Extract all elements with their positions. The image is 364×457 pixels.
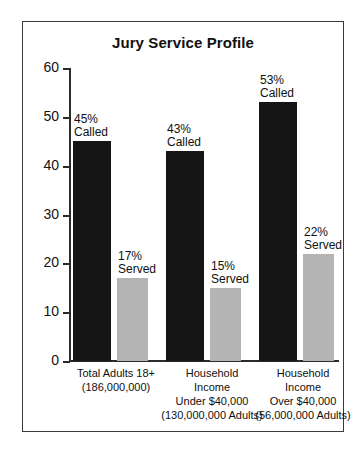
bar-served-group2[interactable]: 15% Served xyxy=(210,288,241,361)
y-tick-label-40: 40 xyxy=(43,157,59,173)
y-tick-label-60: 60 xyxy=(43,59,59,75)
category-line2-group3: Income xyxy=(249,380,357,394)
bar-called-group3[interactable]: 53% Called xyxy=(259,102,297,361)
y-tick-label-0: 0 xyxy=(51,352,59,368)
plot-area: 45% Called 17% Served 43% Called 15% Ser… xyxy=(69,68,337,361)
category-label-group1: Total Adults 18+ (186,000,000) xyxy=(71,366,161,394)
category-label-group3: Household Income Over $40,000 (56,000,00… xyxy=(249,366,357,422)
bar-series-served-group3: Served xyxy=(304,238,342,252)
y-tick-label-10: 10 xyxy=(43,303,59,319)
bar-value-served-group3: 22% xyxy=(304,225,328,239)
bar-label-served-group2: 15% Served xyxy=(211,260,249,286)
category-line2-group1: (186,000,000) xyxy=(71,380,161,394)
y-tick-label-20: 20 xyxy=(43,254,59,270)
y-tick-label-50: 50 xyxy=(43,108,59,124)
bar-label-served-group3: 22% Served xyxy=(304,226,342,252)
chart-title: Jury Service Profile xyxy=(23,34,343,51)
category-line1-group1: Total Adults 18+ xyxy=(71,366,161,380)
bar-value-called-group1: 45% xyxy=(74,112,98,126)
bar-value-called-group3: 53% xyxy=(260,73,284,87)
bar-value-served-group1: 17% xyxy=(118,249,142,263)
bar-label-called-group1: 45% Called xyxy=(74,113,108,139)
bar-value-served-group2: 15% xyxy=(211,259,235,273)
category-line1-group3: Household xyxy=(249,366,357,380)
bar-series-served-group2: Served xyxy=(211,272,249,286)
chart-frame: Jury Service Profile 0 10 20 30 40 50 60… xyxy=(22,21,344,432)
y-tick-0: 0 xyxy=(63,361,70,363)
bar-series-served-group1: Served xyxy=(118,262,156,276)
y-tick-label-30: 30 xyxy=(43,206,59,222)
bar-series-called-group3: Called xyxy=(260,86,294,100)
bar-series-called-group2: Called xyxy=(167,135,201,149)
bar-served-group1[interactable]: 17% Served xyxy=(117,278,148,361)
bar-label-served-group1: 17% Served xyxy=(118,250,156,276)
bar-label-called-group2: 43% Called xyxy=(167,123,201,149)
bar-label-called-group3: 53% Called xyxy=(260,74,294,100)
bar-called-group1[interactable]: 45% Called xyxy=(73,141,111,361)
category-line4-group3: (56,000,000 Adults) xyxy=(249,408,357,422)
bar-called-group2[interactable]: 43% Called xyxy=(166,151,204,361)
bar-served-group3[interactable]: 22% Served xyxy=(303,254,334,361)
category-line3-group3: Over $40,000 xyxy=(249,394,357,408)
bar-series-called-group1: Called xyxy=(74,125,108,139)
bar-value-called-group2: 43% xyxy=(167,122,191,136)
